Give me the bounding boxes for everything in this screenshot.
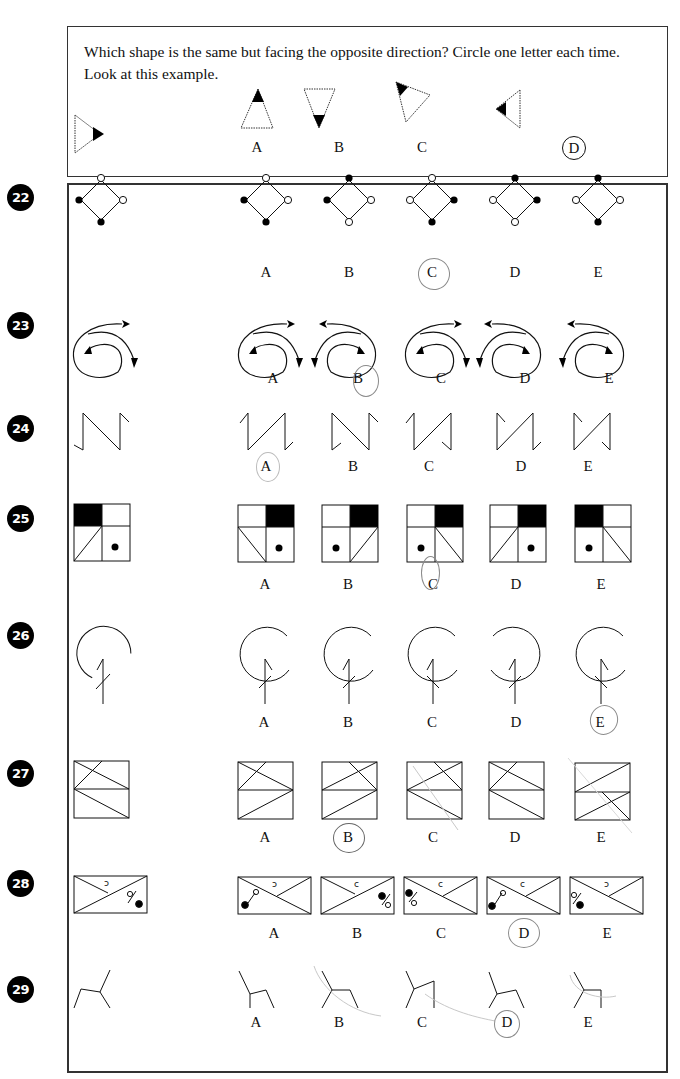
q29-option-a[interactable]: A (246, 1014, 266, 1031)
q29-shapes (0, 0, 680, 1079)
q29-pencil-circle-mark (494, 1010, 520, 1038)
q29-option-e[interactable]: E (578, 1014, 598, 1031)
q29-option-b[interactable]: B (329, 1014, 349, 1031)
q29-option-c[interactable]: C (412, 1014, 432, 1031)
